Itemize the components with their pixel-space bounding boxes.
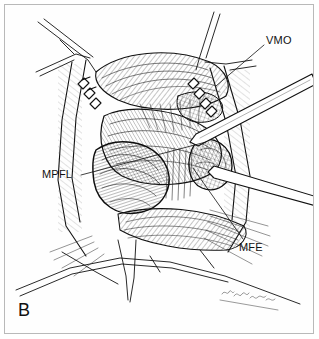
artist-signature [220, 291, 278, 310]
label-vmo: VMO [266, 34, 292, 46]
label-mpfl: MPFL [42, 168, 72, 180]
label-mfe: MFE [239, 241, 263, 253]
panel-letter: B [18, 300, 30, 321]
mfe-medial-femoral-epicondyle [189, 139, 232, 189]
figure-panel: VMO MPFL MFE B [0, 0, 319, 339]
